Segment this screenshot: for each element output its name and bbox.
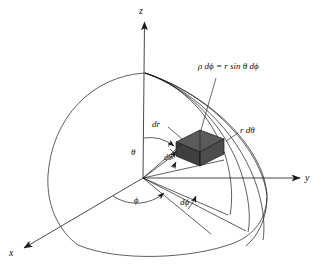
dtheta-tick-lower bbox=[173, 162, 176, 168]
leader-dr bbox=[168, 127, 182, 139]
phi-label: ϕ bbox=[134, 196, 139, 205]
x-axis bbox=[24, 178, 143, 248]
spherical-coordinates-diagram bbox=[0, 0, 326, 267]
r-dtheta-label: r dθ bbox=[240, 126, 255, 135]
r-label: r bbox=[168, 141, 171, 149]
leader-r-dtheta bbox=[226, 133, 238, 141]
coordinate-axes bbox=[24, 22, 300, 248]
axis-label-y: y bbox=[305, 173, 309, 183]
sphere-octant-wireframe bbox=[48, 73, 267, 256]
axis-label-x: x bbox=[9, 248, 13, 258]
theta-label: θ bbox=[131, 148, 135, 157]
dr-label: dr bbox=[152, 120, 160, 129]
radius-phi-0 bbox=[143, 178, 211, 234]
z-axis bbox=[143, 22, 145, 178]
sphere-outline-left bbox=[48, 73, 145, 245]
radius-phi-2 bbox=[143, 178, 246, 231]
axis-label-z: z bbox=[139, 6, 143, 16]
theta-ray-upper bbox=[143, 146, 180, 178]
equator-arc bbox=[78, 197, 267, 256]
arc-length-equation-label: ρ dϕ = r sin θ dϕ bbox=[198, 62, 259, 71]
dphi-label: dϕ bbox=[180, 198, 189, 207]
dtheta-label: dθ bbox=[164, 154, 172, 162]
